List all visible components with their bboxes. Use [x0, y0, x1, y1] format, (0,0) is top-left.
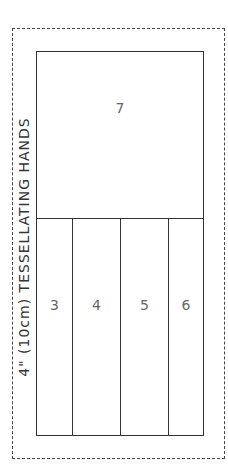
piece-label: 3 — [37, 297, 72, 313]
piece-label: 6 — [169, 297, 203, 313]
piece-6: 6 — [169, 219, 203, 435]
piece-7: 7 — [37, 52, 203, 219]
piece-3: 3 — [37, 219, 73, 435]
piece-label: 7 — [37, 100, 203, 116]
piece-4: 4 — [73, 219, 121, 435]
piece-label: 5 — [121, 297, 168, 313]
strip-pieces: 3 4 5 6 — [37, 219, 203, 435]
piece-5: 5 — [121, 219, 169, 435]
block-title: 4" (10cm) TESSELLATING HANDS — [16, 117, 32, 376]
pattern-block: 7 3 4 5 6 — [36, 51, 204, 436]
piece-label: 4 — [73, 297, 120, 313]
